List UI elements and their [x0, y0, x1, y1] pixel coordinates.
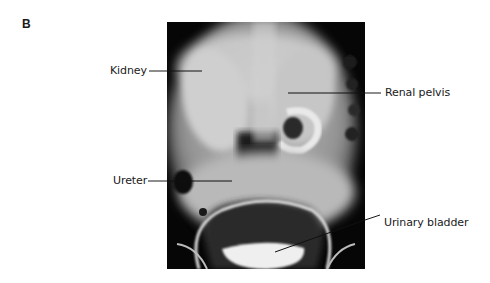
- label-kidney: Kidney: [110, 65, 147, 77]
- xray-image: [167, 22, 365, 269]
- urinary-bladder-leader-line: [365, 215, 380, 220]
- label-renal-pelvis: Renal pelvis: [385, 87, 450, 99]
- label-urinary-bladder: Urinary bladder: [384, 217, 468, 229]
- panel-letter: B: [22, 17, 31, 31]
- label-ureter: Ureter: [113, 175, 147, 187]
- xray-illustration: [167, 22, 365, 269]
